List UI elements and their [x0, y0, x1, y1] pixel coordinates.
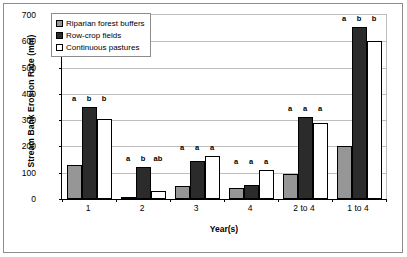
chart-legend: Riparian forest buffers Row-crop fields … — [51, 13, 151, 57]
x-tick-mark — [62, 199, 63, 202]
x-tick-mark — [116, 199, 117, 202]
x-tick-label: 2 to 4 — [293, 203, 314, 213]
bar — [97, 119, 112, 199]
legend-swatch-icon-pastures — [56, 44, 63, 51]
bar-group: aaa — [170, 15, 224, 199]
significance-letter: a — [121, 154, 136, 163]
significance-letter: a — [337, 14, 352, 23]
bar — [313, 123, 328, 199]
x-tick-label: 1 to 4 — [347, 203, 368, 213]
bar-group-bars — [332, 15, 386, 199]
legend-item-riparian-forest-buffers: Riparian forest buffers — [56, 17, 145, 29]
legend-label-rowcrop: Row-crop fields — [66, 31, 121, 40]
bar — [151, 191, 166, 199]
y-tick-label: 200 — [0, 141, 36, 151]
y-tick-label: 0 — [0, 194, 36, 204]
significance-letter: b — [97, 94, 112, 103]
x-tick-label: 4 — [248, 203, 253, 213]
bar — [67, 165, 82, 199]
significance-letter: a — [244, 157, 259, 166]
significance-letter: a — [283, 104, 298, 113]
x-tick-mark — [386, 199, 387, 202]
y-tick-label: 700 — [0, 10, 36, 20]
x-tick-label: 2 — [140, 203, 145, 213]
bar-group: aaa — [278, 15, 332, 199]
significance-letters: abb — [332, 14, 386, 23]
significance-letter: a — [175, 143, 190, 152]
bar — [82, 107, 97, 199]
significance-letters: abab — [116, 154, 170, 163]
legend-item-row-crop-fields: Row-crop fields — [56, 29, 145, 41]
y-tick-label: 300 — [0, 115, 36, 125]
x-tick-label: 3 — [194, 203, 199, 213]
bar — [259, 170, 274, 199]
bar — [244, 185, 259, 199]
bar — [136, 167, 151, 199]
significance-letter: a — [67, 94, 82, 103]
legend-label-pastures: Continuous pastures — [66, 43, 139, 52]
significance-letter: b — [352, 14, 367, 23]
significance-letter: ab — [151, 154, 166, 163]
bar — [298, 117, 313, 199]
y-tick-label: 100 — [0, 168, 36, 178]
significance-letter: a — [205, 143, 220, 152]
y-tick-label: 400 — [0, 89, 36, 99]
bar — [229, 188, 244, 199]
significance-letter: a — [190, 143, 205, 152]
bar — [352, 27, 367, 199]
significance-letters: abb — [62, 94, 116, 103]
bar — [205, 156, 220, 199]
significance-letters: aaa — [278, 104, 332, 113]
y-tick-label: 500 — [0, 63, 36, 73]
bar — [190, 161, 205, 199]
legend-swatch-icon-riparian — [56, 20, 63, 27]
x-tick-mark — [332, 199, 333, 202]
x-tick-mark — [224, 199, 225, 202]
bar — [367, 41, 382, 199]
significance-letter: b — [82, 94, 97, 103]
bar-group: abb — [332, 15, 386, 199]
significance-letter: b — [136, 154, 151, 163]
bar-group-bars — [224, 15, 278, 199]
y-tick-label: 600 — [0, 36, 36, 46]
bar — [337, 146, 352, 199]
legend-label-riparian: Riparian forest buffers — [66, 19, 145, 28]
bar-group: aaa — [224, 15, 278, 199]
significance-letter: a — [298, 104, 313, 113]
significance-letter: a — [313, 104, 328, 113]
significance-letters: aaa — [170, 143, 224, 152]
significance-letter: a — [229, 157, 244, 166]
x-tick-label: 1 — [86, 203, 91, 213]
significance-letter: a — [259, 157, 274, 166]
x-tick-mark — [278, 199, 279, 202]
significance-letter: b — [367, 14, 382, 23]
legend-item-continuous-pastures: Continuous pastures — [56, 41, 145, 53]
bar-group-bars — [170, 15, 224, 199]
legend-swatch-icon-rowcrop — [56, 32, 63, 39]
significance-letters: aaa — [224, 157, 278, 166]
bar — [175, 186, 190, 199]
bar — [283, 174, 298, 199]
chart-figure: Stream Bank Erosion Rate (mm) 0100200300… — [0, 0, 407, 257]
x-axis-title: Year(s) — [61, 224, 387, 234]
x-tick-mark — [170, 199, 171, 202]
bar — [121, 197, 136, 199]
